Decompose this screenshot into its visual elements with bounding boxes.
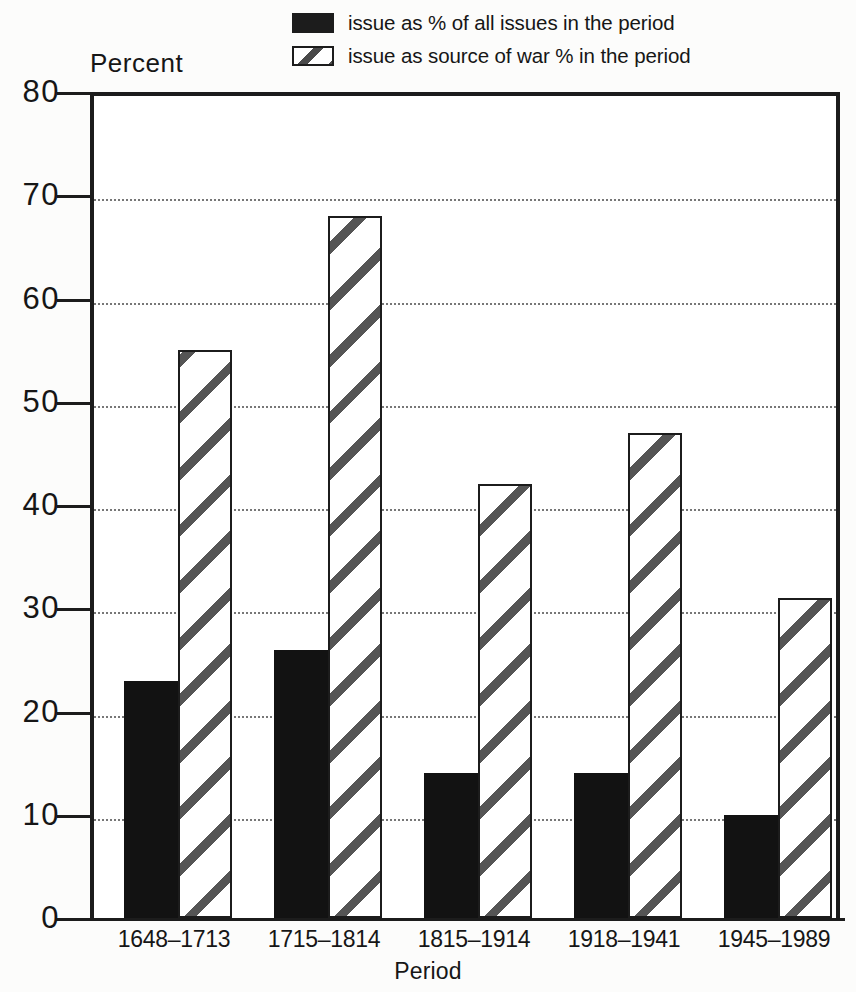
bar: [124, 681, 178, 918]
y-axis-tick-label: 50: [23, 384, 60, 420]
legend-item-source-of-war: issue as source of war % in the period: [292, 39, 852, 72]
plot-area: [90, 92, 840, 918]
diagonal-hatch-swatch-icon: [292, 46, 334, 66]
bar-hatch-fill: [628, 433, 682, 918]
x-axis-tick-label: 1918–1941: [568, 926, 680, 953]
bar-hatch-fill: [178, 350, 232, 918]
x-axis-tick-label: 1715–1814: [268, 926, 380, 953]
bar-hatch-fill: [778, 598, 832, 918]
bar-hatch-fill: [328, 216, 382, 918]
y-axis-tick-label: 30: [23, 590, 60, 626]
solid-black-swatch-icon: [292, 13, 334, 33]
y-axis-tick-label: 60: [23, 281, 60, 317]
legend-item-label: issue as % of all issues in the period: [348, 11, 675, 35]
y-axis-tick: [57, 299, 90, 302]
x-axis-line: [55, 918, 845, 921]
x-axis-tick-label: 1945–1989: [718, 926, 830, 953]
y-axis-tick-label: 40: [23, 487, 60, 523]
bar: [424, 773, 478, 918]
bar: [178, 350, 232, 918]
x-axis-tick-label: 1648–1713: [118, 926, 230, 953]
y-axis-tick: [57, 815, 90, 818]
bar: [628, 433, 682, 918]
chart-figure: issue as % of all issues in the period i…: [0, 0, 856, 992]
bar: [778, 598, 832, 918]
legend-item-all-issues: issue as % of all issues in the period: [292, 6, 852, 39]
y-axis-tick-label: 0: [41, 900, 60, 936]
gridline: [94, 199, 836, 201]
y-axis-tick: [57, 195, 90, 198]
legend-item-label: issue as source of war % in the period: [348, 44, 691, 68]
gridline: [94, 303, 836, 305]
y-axis-tick: [57, 505, 90, 508]
bar: [724, 815, 778, 918]
y-axis-tick: [57, 608, 90, 611]
y-axis-title: Percent: [90, 48, 183, 79]
y-axis-tick-label: 10: [23, 797, 60, 833]
y-axis-tick: [57, 918, 90, 921]
y-axis-tick: [57, 712, 90, 715]
y-axis-tick: [57, 92, 90, 95]
bar: [478, 484, 532, 918]
chart-legend: issue as % of all issues in the period i…: [292, 6, 852, 72]
bar-hatch-fill: [478, 484, 532, 918]
bar: [274, 650, 328, 918]
plot-inner: [94, 96, 836, 918]
y-axis-tick-label: 80: [23, 74, 60, 110]
y-axis-tick-label: 70: [23, 177, 60, 213]
bar: [328, 216, 382, 918]
bar: [574, 773, 628, 918]
y-axis-tick-label: 20: [23, 694, 60, 730]
x-axis-title: Period: [0, 958, 856, 985]
x-axis-tick-label: 1815–1914: [418, 926, 530, 953]
y-axis-tick: [57, 402, 90, 405]
